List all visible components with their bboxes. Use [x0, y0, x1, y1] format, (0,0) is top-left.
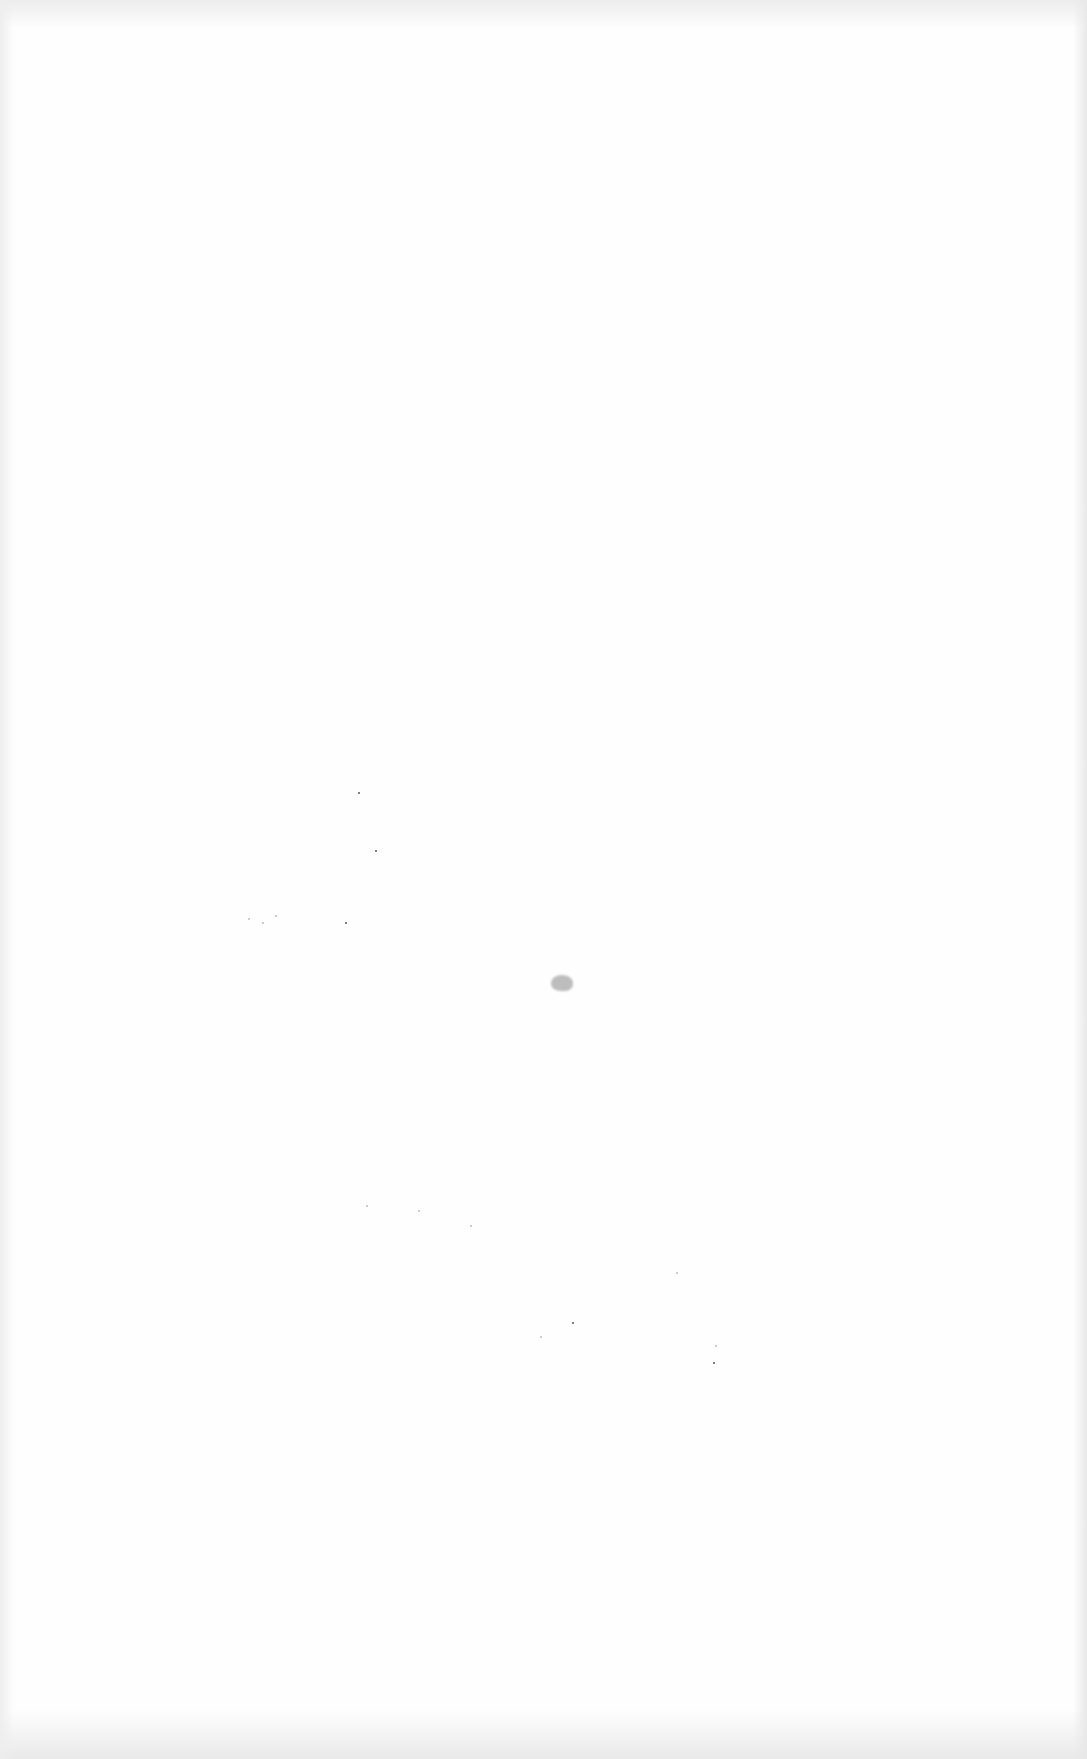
scan-speck	[248, 918, 250, 920]
scan-speck	[345, 922, 347, 924]
blank-scanned-page	[0, 0, 1087, 1759]
scan-speck	[262, 922, 264, 924]
scan-speck	[418, 1210, 420, 1212]
smudge-mark	[551, 975, 573, 991]
scan-speck	[275, 915, 277, 917]
scan-speck	[470, 1225, 472, 1227]
scan-speck	[366, 1205, 368, 1207]
scan-speck	[713, 1362, 715, 1364]
scan-speck	[715, 1345, 717, 1347]
scan-edge-shading-bottom	[0, 1709, 1087, 1759]
scan-speck	[676, 1272, 678, 1274]
scan-speck	[358, 792, 360, 794]
scan-edge-shading-left	[0, 0, 14, 1759]
scan-speck	[572, 1322, 574, 1324]
scan-edge-shading-top	[0, 0, 1087, 28]
scan-edge-shading-right	[1073, 0, 1087, 1759]
scan-speck	[540, 1336, 542, 1338]
scan-speck	[375, 850, 377, 852]
